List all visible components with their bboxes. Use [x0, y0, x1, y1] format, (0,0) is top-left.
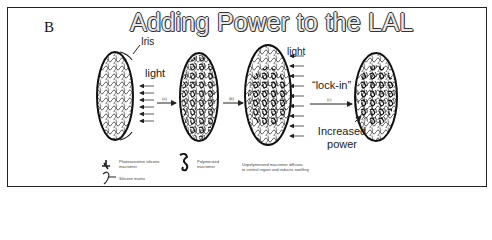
polymerized-macromer-icon	[180, 154, 187, 170]
light-arrows-2	[290, 56, 304, 136]
legend-diffusion-line2: to central region and induces swelling	[242, 167, 309, 172]
legend-silicone-matrix: Silicone matrix	[119, 176, 145, 181]
lens-2	[180, 53, 218, 141]
legend-polymerized-line2: macromer	[197, 164, 215, 169]
silicone-matrix-icon	[103, 172, 116, 184]
light-arrows-1	[140, 86, 154, 121]
lens-1	[97, 52, 133, 140]
step-label-a: (a)	[162, 96, 167, 101]
light-label-2: light	[287, 46, 305, 57]
lens-3	[245, 45, 291, 145]
increased-power-label-line2: power	[312, 138, 372, 150]
step-label-b: (b)	[229, 96, 234, 101]
iris-label: Iris	[141, 36, 154, 47]
increased-power-label-line1: Increased	[312, 125, 372, 137]
legend-photosensitive-line2: macromer	[119, 164, 137, 169]
iris-pointer	[133, 45, 140, 54]
photosensitive-macromer-icon	[102, 160, 110, 169]
step-label-c: (c)	[327, 97, 332, 102]
lock-in-label: “lock-in”	[312, 79, 351, 91]
light-label-1: light	[145, 67, 165, 79]
